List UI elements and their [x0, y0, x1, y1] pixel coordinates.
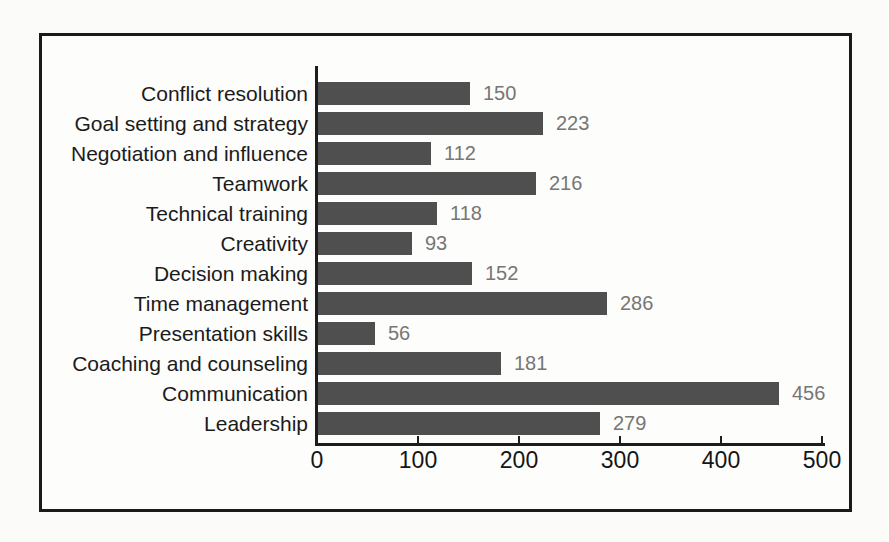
bar: [318, 82, 470, 105]
category-label: Conflict resolution: [42, 81, 308, 106]
value-label: 279: [613, 411, 646, 436]
bar: [318, 202, 437, 225]
bar: [318, 412, 600, 435]
y-axis-line: [315, 66, 318, 446]
category-label: Goal setting and strategy: [42, 111, 308, 136]
value-label: 112: [444, 141, 476, 166]
bar: [318, 232, 412, 255]
x-axis-tick-label: 0: [277, 447, 357, 474]
x-axis-tick: [619, 436, 621, 443]
x-axis-tick-label: 500: [782, 447, 862, 474]
value-label: 93: [425, 231, 447, 256]
value-label: 286: [620, 291, 653, 316]
category-label: Leadership: [42, 411, 308, 436]
category-label: Presentation skills: [42, 321, 308, 346]
category-label: Communication: [42, 381, 308, 406]
category-label: Creativity: [42, 231, 308, 256]
bar: [318, 142, 431, 165]
x-axis-tick-label: 100: [378, 447, 458, 474]
value-label: 150: [483, 81, 516, 106]
category-label: Coaching and counseling: [42, 351, 308, 376]
category-label: Teamwork: [42, 171, 308, 196]
value-label: 118: [450, 201, 482, 226]
value-label: 456: [792, 381, 825, 406]
x-axis-tick-label: 200: [479, 447, 559, 474]
value-label: 223: [556, 111, 589, 136]
bar: [318, 262, 472, 285]
category-label: Technical training: [42, 201, 308, 226]
x-axis-line: [315, 443, 825, 446]
category-label: Negotiation and influence: [42, 141, 308, 166]
bar: [318, 382, 779, 405]
value-label: 181: [514, 351, 547, 376]
bar-chart: Conflict resolution150Goal setting and s…: [0, 0, 889, 542]
x-axis-tick-label: 300: [580, 447, 660, 474]
category-label: Time management: [42, 291, 308, 316]
bar: [318, 292, 607, 315]
value-label: 216: [549, 171, 582, 196]
value-label: 56: [388, 321, 410, 346]
x-axis-tick: [417, 436, 419, 443]
value-label: 152: [485, 261, 518, 286]
bar: [318, 352, 501, 375]
x-axis-tick: [720, 436, 722, 443]
bar: [318, 322, 375, 345]
bar: [318, 172, 536, 195]
category-label: Decision making: [42, 261, 308, 286]
x-axis-tick-label: 400: [681, 447, 761, 474]
bar: [318, 112, 543, 135]
x-axis-tick: [518, 436, 520, 443]
x-axis-tick: [821, 436, 823, 443]
figure: Conflict resolution150Goal setting and s…: [0, 0, 889, 542]
